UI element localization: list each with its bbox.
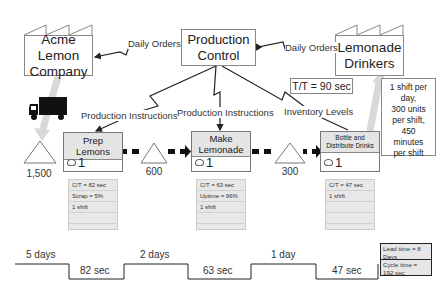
timeline-process-label: 63 sec [203, 265, 232, 276]
production-control-line2: Control [187, 48, 249, 64]
inventory-levels-label: Inventory Levels [284, 106, 353, 117]
operator-icon [195, 159, 204, 166]
operator-count: 1 [206, 155, 213, 170]
truck-icon [29, 97, 67, 120]
process-title: Bottle and Distribute Drinks [321, 132, 379, 153]
operator-count: 1 [78, 155, 85, 170]
timeline-process-label: 82 sec [80, 265, 109, 276]
data-box-make-lemonade: C/T = 63 sec Uptime = 96% 1 shift [196, 179, 246, 230]
timeline-wait-label: 5 days [26, 249, 55, 260]
production-control-box: Production Control [181, 29, 256, 66]
production-instructions-label-1: Production Instructions [81, 110, 178, 121]
production-control-line1: Production [187, 32, 249, 48]
process-title: Make Lemonade [192, 132, 250, 157]
cycle-time: Cycle time = 192 sec [381, 259, 431, 274]
takt-time-box: T/T = 90 sec [290, 78, 353, 94]
production-instructions-label-2: Production Instructions [177, 107, 274, 118]
inventory-label: 300 [270, 166, 310, 177]
data-box-bottle-distribute: C/T = 47 sec 1 shift [325, 179, 375, 230]
inventory-label: 1,500 [19, 168, 59, 179]
operator-count: 1 [335, 155, 342, 170]
daily-orders-supplier-label: Daily Orders [128, 38, 181, 49]
daily-orders-customer-label: Daily Orders [285, 42, 338, 53]
customer-name-line1: Lemonade [338, 40, 402, 56]
process-box-make-lemonade: Make Lemonade 1 [191, 131, 251, 172]
inventory-label: 600 [134, 166, 174, 177]
timeline-wait-label: 1 day [271, 249, 295, 260]
operator-icon [67, 159, 76, 166]
timeline-process-label: 47 sec [332, 265, 361, 276]
customer-requirements-box: 1 shift per day, 300 units per shift, 45… [381, 78, 436, 156]
customer-name-line2: Drinkers [338, 56, 402, 72]
data-box-prep-lemons: C/T = 82 sec Scrap = 5% 1 shift [68, 179, 118, 230]
operator-icon [324, 159, 333, 166]
supplier-name-line2: Company [25, 64, 92, 80]
process-box-prep-lemons: Prep Lemons 1 [63, 132, 123, 172]
process-box-bottle-distribute: Bottle and Distribute Drinks 1 [320, 131, 380, 172]
customer-factory: Lemonade Drinkers [335, 35, 404, 76]
supplier-factory: Acme Lemon Company [24, 35, 93, 76]
lead-cycle-summary-box: Lead time = 8 Days Cycle time = 192 sec [380, 243, 432, 276]
supplier-name-line1: Acme Lemon [25, 32, 92, 64]
lead-time: Lead time = 8 Days [381, 244, 431, 259]
timeline-wait-label: 2 days [140, 249, 169, 260]
